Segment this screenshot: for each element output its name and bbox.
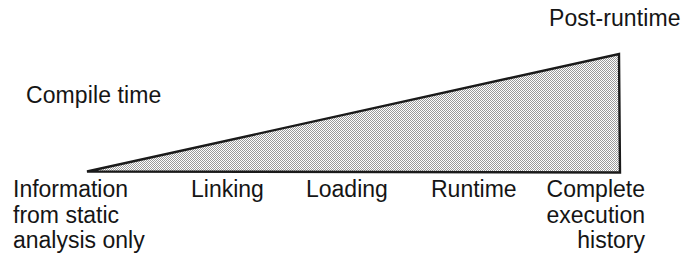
figure-canvas: Post-runtime Compile time Information fr… <box>0 0 690 273</box>
axis-label-complete-execution-history: Complete execution history <box>547 177 645 254</box>
axis-label-information-line-1: Information <box>13 177 145 203</box>
axis-label-runtime: Runtime <box>431 177 517 203</box>
annotation-post-runtime: Post-runtime <box>549 6 681 31</box>
wedge-shape <box>87 54 620 173</box>
axis-label-information-line-2: from static <box>13 203 145 229</box>
axis-label-information-line-3: analysis only <box>13 228 145 254</box>
axis-label-loading: Loading <box>306 177 388 203</box>
axis-label-complete-line-3: history <box>547 228 645 254</box>
annotation-compile-time: Compile time <box>26 83 161 108</box>
axis-label-complete-line-2: execution <box>547 203 645 229</box>
axis-label-complete-line-1: Complete <box>547 177 645 203</box>
axis-label-linking: Linking <box>191 177 264 203</box>
axis-label-information-from-static-analysis-only: Information from static analysis only <box>13 177 145 254</box>
